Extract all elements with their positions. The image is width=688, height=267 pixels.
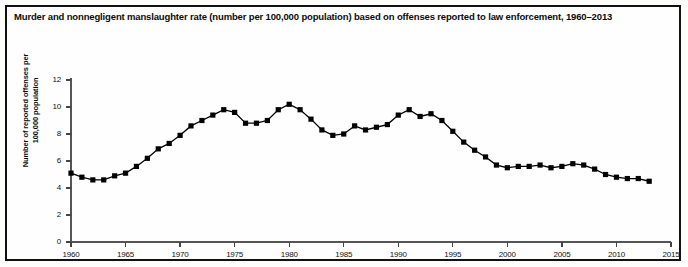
x-tick-label: 2015 <box>651 250 688 259</box>
x-tick-label: 1995 <box>433 250 473 259</box>
chart-figure: Murder and nonnegligent manslaughter rat… <box>0 0 688 267</box>
y-tick-label: 8 <box>37 129 61 138</box>
x-tick-label: 2010 <box>596 250 636 259</box>
y-tick-label: 10 <box>37 102 61 111</box>
y-tick-label: 4 <box>37 183 61 192</box>
y-tick-label: 2 <box>37 210 61 219</box>
x-tick-label: 2000 <box>487 250 527 259</box>
x-tick-label: 2005 <box>542 250 582 259</box>
x-tick-label: 1975 <box>215 250 255 259</box>
x-tick-label: 1965 <box>106 250 146 259</box>
x-tick-label: 1990 <box>378 250 418 259</box>
y-tick-label: 0 <box>37 237 61 246</box>
chart-tick-labels-layer: Number of reported offenses per 100,000 … <box>0 0 688 267</box>
x-tick-label: 1970 <box>160 250 200 259</box>
y-tick-label: 12 <box>37 75 61 84</box>
x-tick-label: 1985 <box>324 250 364 259</box>
x-tick-label: 1980 <box>269 250 309 259</box>
y-tick-label: 6 <box>37 156 61 165</box>
x-tick-label: 1960 <box>51 250 91 259</box>
